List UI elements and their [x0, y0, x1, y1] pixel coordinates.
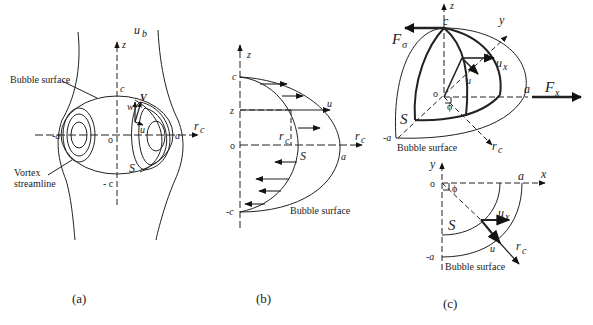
- label-z-c: z: [449, 0, 454, 11]
- label-c: c: [120, 83, 125, 94]
- label-rc-b: r: [279, 129, 284, 143]
- label-a-b: a: [341, 151, 346, 162]
- label-a-right: a: [175, 130, 180, 141]
- panel-b-labels: z c z u r c o r c S a -c Bubble surface …: [226, 49, 366, 306]
- label-rc-b-sub: c: [285, 135, 290, 146]
- label-vortex-2: streamline: [14, 178, 56, 189]
- label-vortex-1: Vortex: [14, 167, 40, 178]
- label-u-c: u: [466, 75, 471, 86]
- label-ub: u: [134, 23, 140, 37]
- label-c-c: c: [443, 14, 449, 28]
- label-z: z: [121, 39, 126, 50]
- s-surface-left: [415, 28, 444, 120]
- label-z-b: z: [229, 105, 234, 116]
- label-neg-c-b: -c: [226, 206, 234, 217]
- label-ux-inset-sub: x: [504, 211, 510, 222]
- label-y-inset: y: [429, 157, 436, 171]
- label-bubble-surface-inset: Bubble surface: [445, 261, 506, 272]
- label-S-c: S: [400, 111, 408, 127]
- label-neg-a-inset: -a: [426, 251, 434, 262]
- label-bubble-surface: Bubble surface: [10, 74, 71, 85]
- label-x-inset: x: [540, 167, 547, 181]
- panel-c-3d-labels: z c y F σ u x u o ϕ a F x S -a r c Bubbl…: [383, 0, 560, 155]
- label-u: u: [140, 124, 145, 135]
- panel-c-3d: [395, 4, 581, 145]
- label-bubble-surface-c: Bubble surface: [397, 142, 458, 153]
- label-S-b: S: [300, 149, 306, 163]
- caption-c: (c): [443, 296, 457, 311]
- label-rc-axis-b: r: [355, 129, 360, 143]
- label-z-axis-b: z: [246, 49, 251, 60]
- radius-to-point: [444, 58, 462, 97]
- vortex-right-inner: [147, 121, 165, 151]
- bubble-surface-outer-c2: [444, 28, 526, 97]
- label-o-inset: o: [430, 178, 435, 189]
- label-fx-sub: x: [554, 87, 560, 98]
- label-rc-inset: r: [516, 239, 521, 253]
- label-f-sigma-sub: σ: [402, 39, 408, 50]
- u-vector-inset: [481, 220, 500, 243]
- label-fx: F: [544, 79, 555, 95]
- label-neg-c: - c: [103, 178, 114, 189]
- label-S-inset: S: [448, 217, 456, 233]
- label-o-b: o: [230, 140, 235, 151]
- label-rc-c: r: [492, 139, 497, 153]
- label-o: o: [108, 134, 113, 145]
- label-ux-c-sub: x: [502, 61, 508, 72]
- rc-dashed-inset: [442, 183, 481, 220]
- label-rc: r: [194, 119, 199, 133]
- label-a-left: -a: [52, 130, 60, 141]
- label-u-inset: u: [490, 243, 495, 254]
- panel-b: [240, 45, 362, 228]
- label-ub-sub: b: [142, 28, 147, 39]
- label-rc-inset-sub: c: [522, 245, 527, 256]
- label-c-b: c: [232, 71, 237, 82]
- label-y-c: y: [498, 13, 505, 27]
- label-a-inset: a: [518, 169, 524, 183]
- label-bubble-surface-b: Bubble surface: [290, 205, 351, 216]
- figure-canvas: u b z Bubble surface c V w u -a o a r c …: [0, 0, 593, 325]
- y-axis-c: [398, 36, 507, 138]
- label-w: w: [127, 101, 134, 112]
- label-rc-axis-b-sub: c: [361, 134, 366, 145]
- label-rc-sub: c: [200, 124, 205, 135]
- label-neg-a-c: -a: [383, 132, 391, 143]
- caption-b: (b): [256, 291, 271, 306]
- label-ux-inset: u: [498, 206, 504, 220]
- panel-a-labels: u b z Bubble surface c V w u -a o a r c …: [10, 23, 205, 306]
- label-f-sigma: F: [391, 31, 402, 47]
- s-surface-base: [415, 95, 500, 120]
- label-phi-c: ϕ: [447, 101, 452, 112]
- label-rc-c-sub: c: [498, 144, 503, 155]
- label-S: S: [129, 161, 135, 175]
- panel-c-inset-labels: y o ϕ a x S u x u r c -a Bubble surface …: [426, 157, 547, 311]
- caption-a: (a): [72, 291, 86, 306]
- label-u-b: u: [327, 98, 332, 109]
- label-a-c: a: [524, 82, 530, 96]
- label-o-c: o: [433, 88, 438, 99]
- label-phi-inset: ϕ: [452, 183, 457, 194]
- label-ux-c: u: [496, 56, 502, 70]
